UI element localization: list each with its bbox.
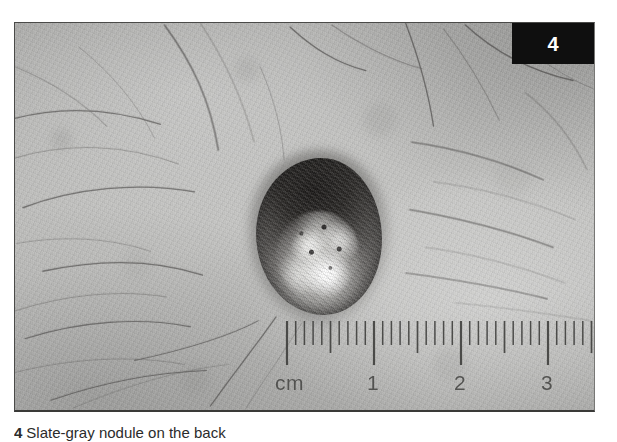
measuring-ruler: cm 1 2 3 xyxy=(255,313,595,412)
figure-caption: 4Slate-gray nodule on the back xyxy=(14,424,604,442)
caption-figure-number: 4 xyxy=(14,424,22,441)
figure-number-badge: 4 xyxy=(512,23,594,64)
ruler-label-cm: cm xyxy=(275,371,304,395)
clinical-photograph: cm 1 2 3 4 xyxy=(14,22,595,412)
figure-number-text: 4 xyxy=(547,34,558,54)
ruler-label-1: 1 xyxy=(367,371,379,395)
skin-lesion xyxy=(256,158,382,315)
ruler-label-3: 3 xyxy=(541,371,553,395)
ruler-labels: cm 1 2 3 xyxy=(255,313,595,412)
caption-text: Slate-gray nodule on the back xyxy=(26,424,225,441)
ruler-label-2: 2 xyxy=(454,371,466,395)
